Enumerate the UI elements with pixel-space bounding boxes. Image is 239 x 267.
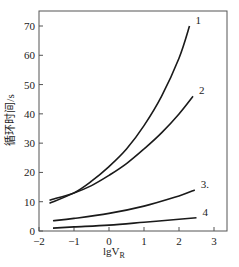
y-tick-label: 40 [24,108,36,120]
x-tick-label: 2 [176,235,182,247]
y-tick-label: 50 [24,79,36,91]
y-tick-label: 30 [24,137,36,149]
x-tick-label: 1 [141,235,147,247]
x-tick-label: −1 [68,235,80,247]
chart: −2−10123 010203040506070 123.4 lgVR 循环时间… [0,0,239,267]
series-labels: 123.4 [196,14,210,218]
x-axis-label-subscript: R [120,251,126,260]
x-tick-label: 3 [211,235,217,247]
x-axis-label-main: lgV [103,245,120,257]
y-tick-label: 20 [24,166,36,178]
series-1-label: 1 [196,14,202,26]
series-4-line [53,218,197,228]
y-tick-label: 10 [24,196,36,208]
series-2-line [50,96,194,200]
y-axis-label: 循环时间/s [4,94,16,145]
x-axis: −2−10123 [33,227,217,247]
y-tick-label: 70 [24,20,36,32]
y-tick-label: 0 [30,225,36,237]
series-3-line [53,190,195,221]
y-tick-label: 60 [24,49,36,61]
x-axis-label: lgVR [103,245,126,260]
series-group [50,26,197,228]
series-1-line [50,26,190,203]
series-4-label: 4 [203,206,209,218]
plot-frame [39,11,227,231]
series-2-label: 2 [199,84,205,96]
series-3-label: 3. [201,178,210,190]
y-axis: 010203040506070 [24,20,43,237]
